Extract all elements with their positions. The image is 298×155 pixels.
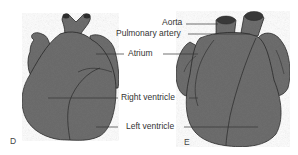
heart-d-illustration (22, 14, 119, 141)
panel-label-e: E (184, 137, 190, 147)
label-right-ventricle: Right ventricle (121, 93, 175, 102)
heart-e-illustration (176, 12, 290, 147)
label-aorta: Aorta (162, 18, 182, 27)
diagram-canvas (0, 0, 298, 155)
label-atrium: Atrium (128, 49, 153, 58)
panel-label-d: D (10, 136, 16, 146)
label-left-ventricle: Left ventricle (126, 122, 174, 131)
label-pulmonary-artery: Pulmonary artery (116, 29, 181, 38)
